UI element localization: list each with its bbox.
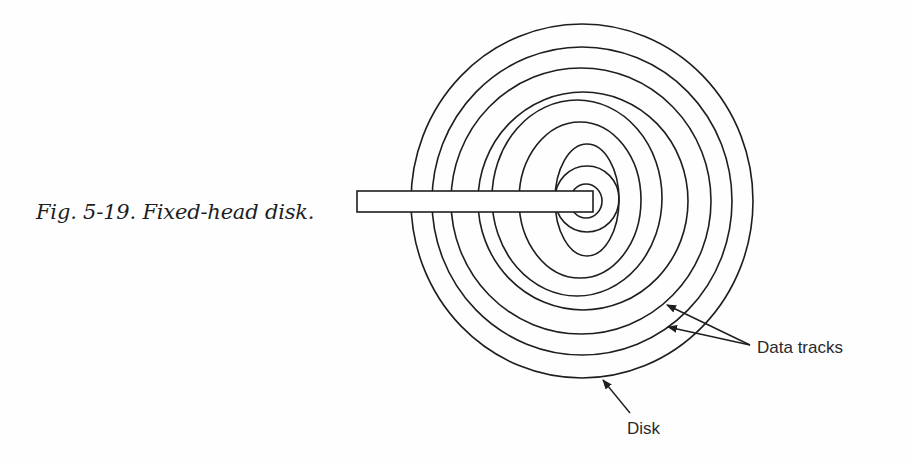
data-track-arrow-2-icon: [668, 327, 750, 345]
figure-caption: Fig. 5-19. Fixed-head disk.: [36, 200, 314, 224]
figure-canvas: Fig. 5-19. Fixed-head disk. Data tracks …: [0, 0, 909, 464]
disk-arrow-icon: [603, 380, 630, 413]
disk-label: Disk: [627, 419, 660, 439]
data-tracks-label: Data tracks: [757, 338, 843, 358]
fixed-head-arm: [357, 191, 593, 212]
fixed-head-disk-diagram: [0, 0, 909, 464]
data-track-arrow-1-icon: [667, 305, 750, 345]
